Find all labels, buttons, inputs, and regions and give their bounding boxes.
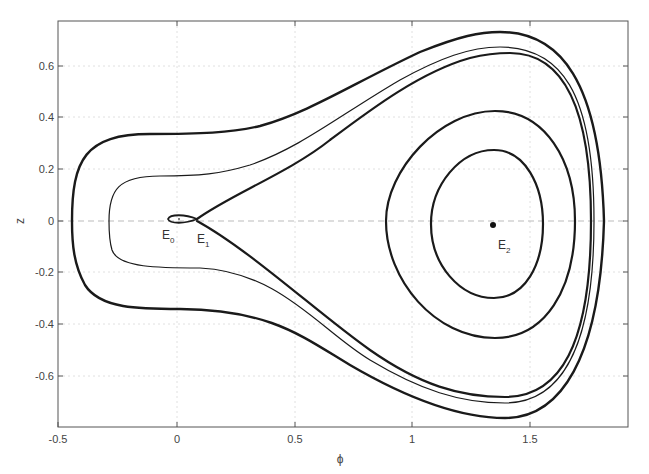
e1-label-sub: 1 <box>205 240 210 249</box>
e0-label-sub: 0 <box>170 236 175 245</box>
x-tick-label: 1 <box>409 433 415 445</box>
y-axis-label: z <box>13 218 27 224</box>
x-tick-label: 0.5 <box>287 433 302 445</box>
y-tick-label: -0.2 <box>35 266 54 278</box>
y-tick-label: -0.4 <box>35 318 54 330</box>
y-tick-label: 0.4 <box>39 111 54 123</box>
e1-label: E <box>197 232 205 246</box>
y-tick-labels: 0.6 0.4 0.2 0 -0.2 -0.4 -0.6 <box>35 60 54 382</box>
x-tick-label: -0.5 <box>49 433 68 445</box>
inner-orbit-2-curve <box>431 150 543 298</box>
e0-label: E <box>162 228 170 242</box>
e2-point <box>490 222 496 228</box>
y-tick-label: 0 <box>48 215 54 227</box>
separatrix-curve <box>197 53 591 397</box>
x-tick-label: 0 <box>174 433 180 445</box>
x-tick-labels: -0.5 0 0.5 1 1.5 <box>49 433 538 445</box>
e0-loop-curve <box>168 215 197 223</box>
e2-label-sub: 2 <box>506 246 511 255</box>
phase-portrait-chart: -0.5 0 0.5 1 1.5 0.6 0.4 0.2 0 -0.2 -0.4… <box>0 0 649 474</box>
x-tick-label: 1.5 <box>522 433 537 445</box>
e2-label: E <box>498 238 506 252</box>
y-tick-label: -0.6 <box>35 370 54 382</box>
thin-orbit-curve <box>109 47 594 403</box>
outer-orbit-curve <box>72 32 604 418</box>
y-tick-label: 0.6 <box>39 60 54 72</box>
y-tick-label: 0.2 <box>39 163 54 175</box>
e0-point <box>178 218 180 220</box>
x-axis-label: ϕ <box>337 452 344 466</box>
orbits <box>72 32 604 418</box>
inner-orbit-1-curve <box>386 111 575 338</box>
